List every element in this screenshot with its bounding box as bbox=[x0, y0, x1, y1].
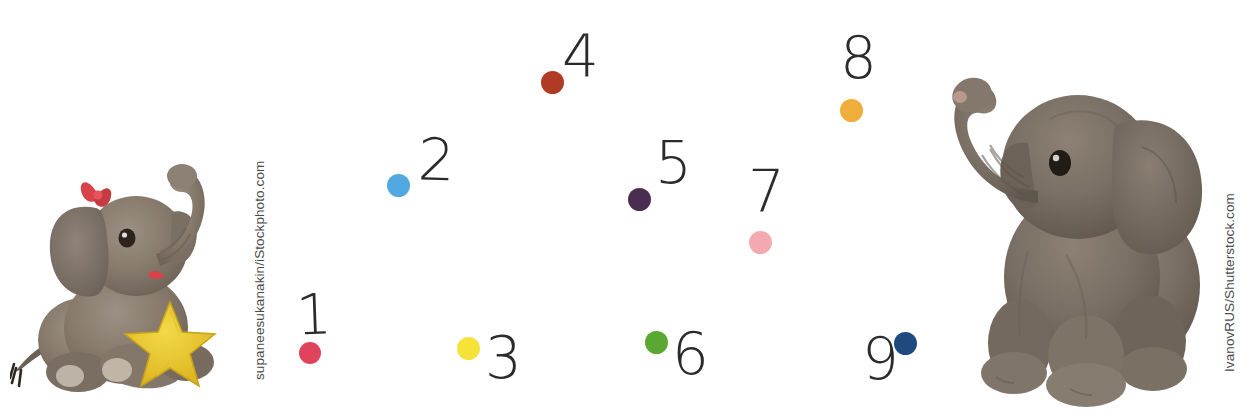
dot-3[interactable] bbox=[457, 337, 480, 360]
photo-elephant-right bbox=[910, 55, 1210, 415]
numeral-1: 1 bbox=[295, 286, 333, 343]
numeral-2: 2 bbox=[417, 130, 456, 189]
dot-5[interactable] bbox=[628, 188, 651, 211]
dot-6[interactable] bbox=[645, 331, 668, 354]
numeral-3: 3 bbox=[485, 329, 522, 387]
numeral-7: 7 bbox=[748, 163, 785, 221]
dot-4[interactable] bbox=[541, 71, 564, 94]
numeral-5: 5 bbox=[655, 134, 692, 192]
photo-credit-right: IvanovRUS/Shutterstock.com bbox=[1222, 193, 1237, 372]
dot-2[interactable] bbox=[387, 174, 410, 197]
dot-7[interactable] bbox=[749, 231, 772, 254]
numeral-8: 8 bbox=[840, 29, 877, 87]
dot-8[interactable] bbox=[840, 99, 863, 122]
worksheet-page: supaneesukanakin/iStockphoto.com bbox=[0, 0, 1241, 419]
numeral-6: 6 bbox=[672, 325, 709, 383]
numeral-4: 4 bbox=[562, 27, 599, 85]
photo-elephant-left bbox=[10, 150, 240, 412]
numeral-9: 9 bbox=[862, 330, 899, 388]
photo-credit-left: supaneesukanakin/iStockphoto.com bbox=[252, 161, 267, 380]
